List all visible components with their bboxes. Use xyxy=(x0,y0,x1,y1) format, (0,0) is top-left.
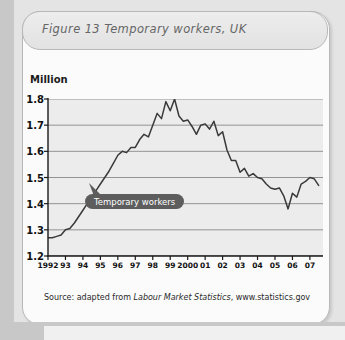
source-publication: Labour Market Statistics xyxy=(134,293,231,302)
y-axis-tick-labels: 1.81.71.61.51.41.31.2 xyxy=(0,0,44,340)
x-axis-tick-label: 01 xyxy=(200,261,210,270)
figure-title: Figure 13 Temporary workers, UK xyxy=(42,22,312,36)
x-axis-tick-label: 05 xyxy=(270,261,280,270)
x-axis-tick-label: 95 xyxy=(95,261,105,270)
y-axis-tick-label: 1.6 xyxy=(26,146,44,157)
x-axis-tick-label: 96 xyxy=(113,261,123,270)
chart-plot-area xyxy=(48,99,323,256)
x-axis-tick-label: 07 xyxy=(305,261,315,270)
y-axis-tick-label: 1.8 xyxy=(26,94,44,105)
x-axis-tick-label: 94 xyxy=(78,261,88,270)
y-axis-tick-label: 1.2 xyxy=(26,251,44,262)
source-suffix: , www.statistics.gov xyxy=(231,293,310,302)
x-axis-tick-label: 1992 xyxy=(38,261,59,270)
figure-source: Source: adapted from Labour Market Stati… xyxy=(44,293,324,302)
x-axis-tick-label: 02 xyxy=(217,261,227,270)
x-axis-tick-label: 93 xyxy=(60,261,70,270)
x-axis-tick-label: 03 xyxy=(235,261,245,270)
callout-text: Temporary workers xyxy=(94,197,175,207)
x-axis-tick-label: 99 xyxy=(165,261,175,270)
x-axis-tick-label: 06 xyxy=(287,261,297,270)
x-axis-tick-label: 04 xyxy=(252,261,262,270)
x-axis-tick-label: 98 xyxy=(148,261,158,270)
data-line-temporary-workers xyxy=(48,99,319,238)
page-bottom-strip-inner xyxy=(44,326,345,340)
y-axis-tick-label: 1.5 xyxy=(26,172,44,183)
y-axis-tick-label: 1.7 xyxy=(26,120,44,131)
source-prefix: Source: adapted from xyxy=(44,293,134,302)
x-axis-tick-label: 97 xyxy=(130,261,140,270)
y-axis-tick-label: 1.4 xyxy=(26,198,44,209)
x-axis-tick-label: 2000 xyxy=(177,261,198,270)
series-callout-label: Temporary workers xyxy=(85,194,184,209)
chart-line-svg xyxy=(48,99,323,256)
y-axis-tick-label: 1.3 xyxy=(26,224,44,235)
